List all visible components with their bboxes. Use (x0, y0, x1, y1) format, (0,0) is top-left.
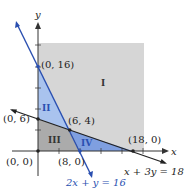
label-point-0-0: (0, 0) (6, 156, 33, 167)
region-I-label: I (101, 78, 105, 88)
black-line-arrow-right-icon (160, 159, 167, 164)
equation-black-line: x + 3y = 18 (124, 166, 184, 177)
point-0-0 (36, 149, 40, 153)
point-6-4 (68, 128, 72, 132)
y-axis-label: y (34, 9, 41, 20)
label-point-18-0: (18, 0) (128, 134, 161, 145)
label-point-0-16: (0, 16) (41, 59, 74, 70)
point-0-6 (36, 117, 40, 121)
x-axis-arrow-icon (162, 148, 169, 154)
feasible-region-diagram: y x (0, 16) (0, 6) (6, 4) (0, 0) (8, 0) … (0, 0, 186, 193)
label-point-6-4: (6, 4) (68, 115, 95, 126)
region-III-label: III (48, 135, 61, 145)
point-8-0 (78, 149, 82, 153)
label-point-0-6: (0, 6) (3, 113, 30, 124)
label-point-8-0: (8, 0) (58, 156, 85, 167)
point-18-0 (131, 149, 135, 153)
y-axis-arrow-icon (35, 22, 41, 29)
blue-line-arrow-top-icon (15, 21, 20, 28)
region-IV-label: IV (81, 138, 93, 148)
equation-blue-line: 2x + y = 16 (65, 177, 126, 188)
x-axis-label: x (171, 146, 177, 157)
point-0-16 (36, 65, 40, 69)
region-II-label: II (42, 103, 50, 113)
